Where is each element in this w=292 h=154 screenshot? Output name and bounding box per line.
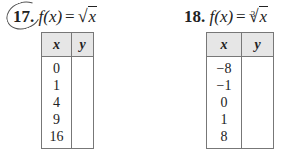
y-cell[interactable] bbox=[72, 77, 94, 94]
x-cell: 4 bbox=[42, 94, 72, 111]
table-row: 0 bbox=[207, 94, 274, 111]
y-cell[interactable] bbox=[242, 111, 274, 128]
y-cell[interactable] bbox=[72, 128, 94, 149]
y-cell[interactable] bbox=[242, 128, 274, 149]
y-cell[interactable] bbox=[242, 77, 274, 94]
problem-17-title: 17. f(x)=√x bbox=[13, 6, 97, 27]
radical-index: 3 bbox=[251, 4, 256, 24]
y-cell[interactable] bbox=[72, 111, 94, 128]
table-row: 0 bbox=[42, 57, 94, 78]
value-table-18: x y −8 −1 0 1 8 bbox=[206, 32, 274, 149]
table-row: 1 bbox=[207, 111, 274, 128]
x-cell: 9 bbox=[42, 111, 72, 128]
table-row: 9 bbox=[42, 111, 94, 128]
x-cell: 1 bbox=[42, 77, 72, 94]
table-row: 1 bbox=[42, 77, 94, 94]
y-cell[interactable] bbox=[242, 94, 274, 111]
table-row: 16 bbox=[42, 128, 94, 149]
x-cell: −1 bbox=[207, 77, 242, 94]
function-lhs: f(x) bbox=[39, 7, 63, 26]
header-x: x bbox=[42, 33, 72, 57]
x-cell: 1 bbox=[207, 111, 242, 128]
x-cell: 0 bbox=[42, 57, 72, 78]
table-row: −8 bbox=[207, 57, 274, 78]
x-cell: 0 bbox=[207, 94, 242, 111]
y-cell[interactable] bbox=[72, 94, 94, 111]
header-y: y bbox=[72, 33, 94, 57]
header-x: x bbox=[207, 33, 242, 57]
table-row: 4 bbox=[42, 94, 94, 111]
problem-number: 17. bbox=[13, 7, 34, 26]
x-cell: −8 bbox=[207, 57, 242, 78]
header-y: y bbox=[242, 33, 274, 57]
equals-sign: = bbox=[65, 7, 75, 26]
problem-18-title: 18. f(x)=3√x bbox=[184, 6, 268, 27]
function-lhs: f(x) bbox=[210, 7, 234, 26]
y-cell[interactable] bbox=[242, 57, 274, 78]
radical-icon: √ bbox=[78, 6, 88, 26]
y-cell[interactable] bbox=[72, 57, 94, 78]
square-root: √x bbox=[78, 6, 97, 27]
radicand: x bbox=[88, 6, 98, 26]
equals-sign: = bbox=[236, 7, 246, 26]
value-table-17: x y 0 1 4 9 16 bbox=[41, 32, 94, 149]
x-cell: 8 bbox=[207, 128, 242, 149]
problem-number: 18. bbox=[184, 7, 205, 26]
radicand: x bbox=[259, 6, 269, 26]
table-row: −1 bbox=[207, 77, 274, 94]
table-row: 8 bbox=[207, 128, 274, 149]
x-cell: 16 bbox=[42, 128, 72, 149]
cube-root: 3√x bbox=[249, 6, 268, 27]
